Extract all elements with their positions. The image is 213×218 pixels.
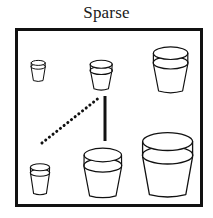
figure-panel: Sparse [0,0,213,218]
scene-border [15,28,203,207]
page-title: Sparse [0,3,213,23]
